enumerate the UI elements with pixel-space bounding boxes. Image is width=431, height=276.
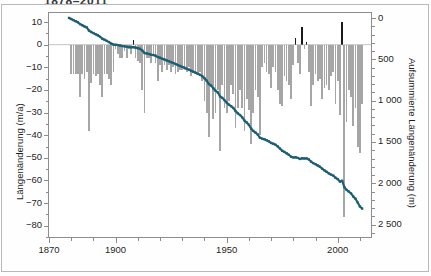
right-tick-minor [372, 167, 375, 168]
left-tick-label: −40 [8, 130, 42, 140]
left-tick-major [44, 158, 48, 159]
left-tick-minor [46, 192, 49, 193]
right-tick-minor [372, 84, 375, 85]
left-tick-major [44, 67, 48, 68]
left-tick-minor [46, 33, 49, 34]
left-tick-label: −70 [8, 198, 42, 208]
bottom-tick-minor [182, 238, 183, 241]
bottom-tick-minor [293, 238, 294, 241]
left-tick-label: −60 [8, 175, 42, 185]
bottom-tick-major [49, 238, 50, 243]
bottom-tick-label: 1950 [207, 245, 247, 255]
left-tick-major [44, 113, 48, 114]
right-tick-major [372, 142, 376, 143]
left-tick-minor [46, 124, 49, 125]
left-tick-major [44, 203, 48, 204]
left-tick-minor [46, 169, 49, 170]
right-tick-major [372, 101, 376, 102]
right-tick-minor [372, 68, 375, 69]
right-tick-minor [372, 175, 375, 176]
right-tick-minor [372, 26, 375, 27]
right-tick-minor [372, 134, 375, 135]
right-tick-minor [372, 43, 375, 44]
right-tick-minor [372, 76, 375, 77]
left-tick-major [44, 180, 48, 181]
bottom-tick-major [116, 238, 117, 243]
bottom-tick-major [338, 238, 339, 243]
bottom-tick-minor [360, 238, 361, 241]
right-tick-minor [372, 125, 375, 126]
right-tick-label: 2 500 [378, 219, 412, 229]
right-tick-minor [372, 216, 375, 217]
bottom-tick-label: 1900 [96, 245, 136, 255]
left-tick-major [44, 45, 48, 46]
left-tick-minor [46, 214, 49, 215]
right-tick-minor [372, 233, 375, 234]
left-tick-minor [46, 147, 49, 148]
left-tick-minor [46, 79, 49, 80]
right-tick-major [372, 18, 376, 19]
left-tick-label: −50 [8, 152, 42, 162]
right-tick-minor [372, 35, 375, 36]
bottom-tick-minor [93, 238, 94, 241]
bottom-tick-minor [71, 238, 72, 241]
right-tick-minor [372, 192, 375, 193]
right-tick-label: 2 000 [378, 178, 412, 188]
left-tick-major [44, 90, 48, 91]
bottom-tick-minor [204, 238, 205, 241]
left-tick-label: −10 [8, 62, 42, 72]
right-tick-major [372, 225, 376, 226]
bottom-tick-minor [271, 238, 272, 241]
left-tick-major [44, 226, 48, 227]
bottom-tick-minor [249, 238, 250, 241]
plot-area [48, 12, 372, 238]
right-tick-label: 1 500 [378, 136, 412, 146]
right-tick-minor [372, 109, 375, 110]
bottom-tick-major [227, 238, 228, 243]
left-tick-major [44, 135, 48, 136]
cumulative-line-layer [49, 13, 371, 237]
left-tick-label: 10 [8, 17, 42, 27]
right-tick-label: 500 [378, 54, 412, 64]
left-tick-label: −30 [8, 107, 42, 117]
bottom-tick-minor [160, 238, 161, 241]
plot-inner [49, 13, 371, 237]
right-tick-major [372, 183, 376, 184]
left-tick-minor [46, 237, 49, 238]
left-tick-major [44, 22, 48, 23]
right-tick-major [372, 59, 376, 60]
left-tick-minor [46, 101, 49, 102]
right-tick-label: 0 [378, 13, 412, 23]
right-tick-minor [372, 208, 375, 209]
right-tick-label: 1 000 [378, 95, 412, 105]
figure-root: 1878–2011 Längenänderung (m/a) Aufsummie… [0, 0, 431, 276]
bottom-tick-minor [316, 238, 317, 241]
right-tick-minor [372, 51, 375, 52]
right-tick-minor [372, 92, 375, 93]
right-tick-minor [372, 117, 375, 118]
bottom-tick-label: 2000 [318, 245, 358, 255]
left-tick-minor [46, 56, 49, 57]
bottom-tick-minor [138, 238, 139, 241]
left-tick-label: −20 [8, 84, 42, 94]
left-tick-label: 0 [8, 39, 42, 49]
bottom-tick-label: 1870 [29, 245, 69, 255]
right-tick-minor [372, 150, 375, 151]
right-tick-minor [372, 159, 375, 160]
right-tick-minor [372, 200, 375, 201]
left-tick-label: −80 [8, 220, 42, 230]
